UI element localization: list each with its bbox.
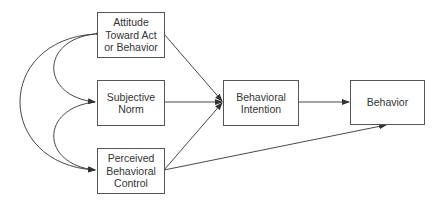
node-norm-label: Subjective Norm: [107, 91, 155, 116]
node-behavioral-intention: Behavioral Intention: [223, 80, 299, 126]
node-behavior: Behavior: [350, 80, 425, 125]
node-subjective-norm: Subjective Norm: [97, 80, 165, 126]
correlation-norm-pbc: [54, 102, 95, 170]
node-attitude: Attitude Toward Act or Behavior: [97, 12, 165, 58]
node-attitude-label: Attitude Toward Act or Behavior: [104, 16, 158, 54]
node-intention-label: Behavioral Intention: [236, 91, 286, 116]
correlation-attitude-norm: [54, 34, 95, 102]
node-behavior-label: Behavior: [367, 96, 408, 109]
node-perceived-control: Perceived Behavioral Control: [97, 148, 165, 194]
node-pbc-label: Perceived Behavioral Control: [106, 152, 156, 190]
edge-attitude-intention: [164, 34, 222, 101]
